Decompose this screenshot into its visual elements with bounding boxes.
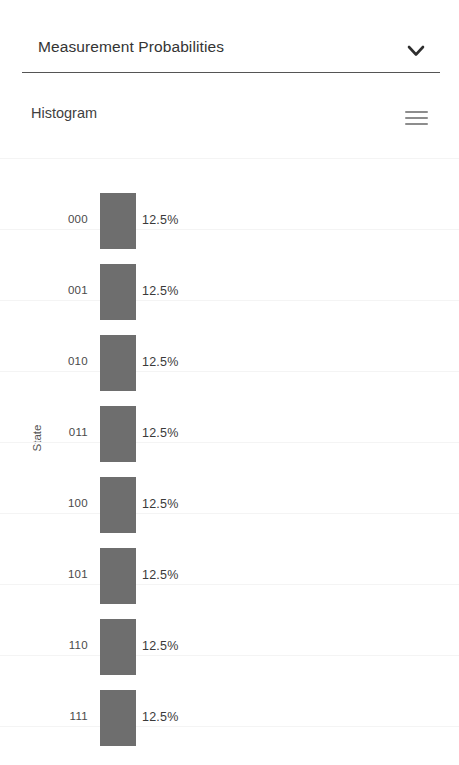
bar-row: 10012.5% (0, 477, 459, 533)
bar-state-label: 000 (0, 213, 88, 225)
hamburger-line (405, 123, 428, 125)
header-divider (22, 72, 440, 73)
bar-rect[interactable] (100, 264, 136, 320)
bar-rect[interactable] (100, 193, 136, 249)
bar-row: 01112.5% (0, 406, 459, 462)
gridline (0, 158, 459, 159)
chart-header: Histogram (0, 100, 459, 142)
bar-state-label: 111 (0, 710, 88, 722)
bar-row: 01012.5% (0, 335, 459, 391)
bar-value-label: 12.5% (142, 497, 178, 511)
bar-rect[interactable] (100, 406, 136, 462)
measurement-probabilities-panel-header[interactable]: Measurement Probabilities (0, 30, 459, 74)
bar-state-label: 011 (0, 426, 88, 438)
bar-state-label: 100 (0, 497, 88, 509)
chart-title: Histogram (31, 105, 97, 121)
bar-state-label: 101 (0, 568, 88, 580)
bar-value-label: 12.5% (142, 710, 178, 724)
bar-row: 11012.5% (0, 619, 459, 675)
hamburger-line (405, 111, 428, 113)
bar-state-label: 001 (0, 284, 88, 296)
bar-row: 00112.5% (0, 264, 459, 320)
bar-row: 00012.5% (0, 193, 459, 249)
bar-rect[interactable] (100, 690, 136, 746)
bar-value-label: 12.5% (142, 426, 178, 440)
bar-value-label: 12.5% (142, 639, 178, 653)
bar-value-label: 12.5% (142, 213, 178, 227)
bar-rect[interactable] (100, 477, 136, 533)
bar-state-label: 010 (0, 355, 88, 367)
hamburger-line (405, 117, 428, 119)
page-title: Measurement Probabilities (38, 38, 224, 56)
bar-value-label: 12.5% (142, 568, 178, 582)
hamburger-menu-icon[interactable] (404, 109, 430, 129)
bar-row: 11112.5% (0, 690, 459, 746)
bar-rect[interactable] (100, 619, 136, 675)
chevron-down-icon[interactable] (404, 42, 428, 60)
bar-rect[interactable] (100, 335, 136, 391)
bar-state-label: 110 (0, 639, 88, 651)
bar-value-label: 12.5% (142, 284, 178, 298)
histogram-plot-area: State 00012.5%00112.5%01012.5%01112.5%10… (0, 150, 459, 765)
bar-rect[interactable] (100, 548, 136, 604)
bar-row: 10112.5% (0, 548, 459, 604)
bar-value-label: 12.5% (142, 355, 178, 369)
